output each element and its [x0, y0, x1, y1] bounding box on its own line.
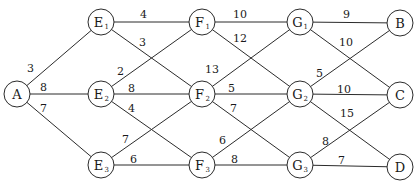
node-label: E — [94, 15, 104, 30]
edge-weight-f1-g1: 10 — [233, 8, 247, 21]
edge-weight-a-e3: 7 — [40, 102, 47, 115]
node-subscript: 2 — [304, 95, 308, 103]
node-b: B — [387, 10, 413, 36]
node-subscript: 2 — [206, 95, 210, 103]
node-subscript: 3 — [304, 166, 308, 174]
node-subscript: 1 — [105, 23, 109, 31]
edge-weight-e1-f1: 4 — [140, 8, 147, 21]
edge-weight-g3-c: 8 — [322, 135, 329, 148]
node-g2: G2 — [287, 81, 313, 107]
edge-weight-e2-f3: 4 — [128, 102, 135, 115]
edge-g3-d — [300, 165, 400, 167]
edge-weight-f3-g3: 8 — [231, 153, 238, 166]
node-label: F — [195, 158, 204, 173]
node-subscript: 2 — [105, 95, 109, 103]
edge-weight-f2-g3: 7 — [230, 102, 237, 115]
edge-a-e1 — [17, 22, 101, 94]
node-a: A — [4, 81, 30, 107]
weighted-graph-diagram: 387432847610121357689105101587 AE1E2E3F1… — [0, 0, 417, 187]
edge-weight-f2-g1: 13 — [205, 63, 219, 76]
node-subscript: 1 — [206, 23, 210, 31]
node-e1: E1 — [88, 9, 114, 35]
edge-weight-e2-f2: 8 — [128, 82, 135, 95]
edge-weight-e3-f3: 6 — [130, 153, 137, 166]
node-d: D — [387, 154, 413, 180]
edge-weight-g2-d: 15 — [340, 107, 354, 120]
edge-weight-g1-c: 10 — [339, 36, 353, 49]
node-e2: E2 — [88, 81, 114, 107]
edge-weight-g2-b: 5 — [316, 67, 323, 80]
edge-g1-b — [300, 22, 400, 23]
edge-weight-e1-f2: 3 — [139, 36, 146, 49]
edge-weight-g3-d: 7 — [338, 154, 345, 167]
edge-weight-e3-f2: 7 — [122, 133, 129, 146]
node-label: G — [292, 158, 302, 173]
node-label: F — [195, 15, 204, 30]
node-g3: G3 — [287, 152, 313, 178]
node-f3: F3 — [189, 152, 215, 178]
node-e3: E3 — [88, 152, 114, 178]
node-label: D — [395, 160, 405, 175]
node-label: A — [11, 87, 22, 102]
edge-weight-f3-g2: 6 — [219, 134, 226, 147]
edge-weight-g2-c: 10 — [337, 83, 351, 96]
edge-weight-g1-b: 9 — [343, 8, 350, 21]
node-label: C — [395, 88, 405, 103]
node-f2: F2 — [189, 81, 215, 107]
node-label: B — [395, 16, 405, 31]
edge-weight-f1-g2: 12 — [233, 32, 247, 45]
node-subscript: 1 — [304, 23, 308, 31]
node-f1: F1 — [189, 9, 215, 35]
node-g1: G1 — [287, 9, 313, 35]
node-label: E — [94, 87, 104, 102]
edge-a-e3 — [17, 94, 101, 165]
edge-weight-e2-f1: 2 — [117, 65, 124, 78]
node-subscript: 3 — [105, 166, 109, 174]
node-label: F — [195, 87, 204, 102]
edge-weight-f2-g2: 5 — [228, 82, 235, 95]
edge-weight-a-e1: 3 — [27, 62, 34, 75]
node-label: G — [292, 15, 302, 30]
node-c: C — [387, 82, 413, 108]
node-subscript: 3 — [206, 166, 210, 174]
edge-weight-a-e2: 8 — [40, 81, 47, 94]
node-label: E — [94, 158, 104, 173]
node-label: G — [292, 87, 302, 102]
